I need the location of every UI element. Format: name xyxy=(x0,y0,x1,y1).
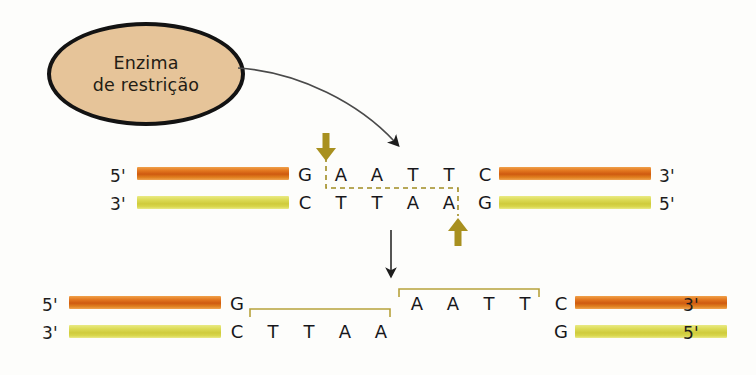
enzyme-action-arrow xyxy=(238,68,395,142)
right-fragment-bottom-base-0: G xyxy=(551,321,571,342)
right-fragment-top-base-4: C xyxy=(551,293,571,314)
top-panel-bottom-base-1: T xyxy=(331,192,351,213)
top-panel-top-base-4: T xyxy=(439,164,459,185)
enzyme-label-line2: de restrição xyxy=(93,74,200,96)
left-fragment-top-strand-bar xyxy=(69,296,221,309)
right-fragment-top-base-0: A xyxy=(407,293,427,314)
top-panel-left-label-3prime: 3' xyxy=(110,194,126,214)
top-panel-bottom-base-2: T xyxy=(367,192,387,213)
top-panel-left-bottom-strand-bar xyxy=(137,196,289,209)
top-panel-right-top-strand-bar xyxy=(499,167,651,180)
left-fragment-bottom-base-0: C xyxy=(227,321,247,342)
left-fragment-bottom-base-4: A xyxy=(371,321,391,342)
top-panel-top-base-1: A xyxy=(331,164,351,185)
top-panel-left-label-5prime: 5' xyxy=(110,166,126,186)
top-panel-bottom-base-0: C xyxy=(295,192,315,213)
left-fragment-bottom-base-2: T xyxy=(299,321,319,342)
left-fragment-label-5prime: 5' xyxy=(42,295,58,315)
top-panel-left-top-strand-bar xyxy=(137,167,289,180)
left-fragment-bottom-strand-bar xyxy=(69,325,221,338)
left-sticky-end-bracket xyxy=(250,309,390,317)
top-panel-top-base-3: T xyxy=(403,164,423,185)
right-fragment-top-base-1: A xyxy=(443,293,463,314)
left-fragment-label-3prime: 3' xyxy=(42,323,58,343)
right-fragment-top-base-3: T xyxy=(515,293,535,314)
cut-arrow-top-strand xyxy=(316,133,336,161)
top-panel-bottom-base-5: G xyxy=(475,192,495,213)
top-panel-right-label-3prime: 3' xyxy=(659,166,675,186)
right-fragment-top-base-2: T xyxy=(479,293,499,314)
top-panel-bottom-base-4: A xyxy=(439,192,459,213)
enzyme-ellipse: Enzima de restrição xyxy=(47,22,245,126)
left-fragment-top-base-0: G xyxy=(227,293,247,314)
left-fragment-bottom-base-3: A xyxy=(335,321,355,342)
enzyme-label-line1: Enzima xyxy=(113,52,178,74)
top-panel-top-base-0: G xyxy=(295,164,315,185)
top-panel-top-base-2: A xyxy=(367,164,387,185)
top-panel-top-base-5: C xyxy=(475,164,495,185)
top-panel-right-bottom-strand-bar xyxy=(499,196,651,209)
right-fragment-bottom-strand-bar xyxy=(575,325,727,338)
right-fragment-label-3prime: 3' xyxy=(683,295,699,315)
figure-canvas: Enzima de restrição 5' 3' G A A T T C C … xyxy=(0,0,756,375)
right-fragment-label-5prime: 5' xyxy=(683,323,699,343)
cut-arrow-bottom-strand xyxy=(448,218,468,246)
top-panel-right-label-5prime: 5' xyxy=(659,194,675,214)
left-fragment-bottom-base-1: T xyxy=(263,321,283,342)
top-panel-bottom-base-3: A xyxy=(403,192,423,213)
right-fragment-top-strand-bar xyxy=(575,296,727,309)
